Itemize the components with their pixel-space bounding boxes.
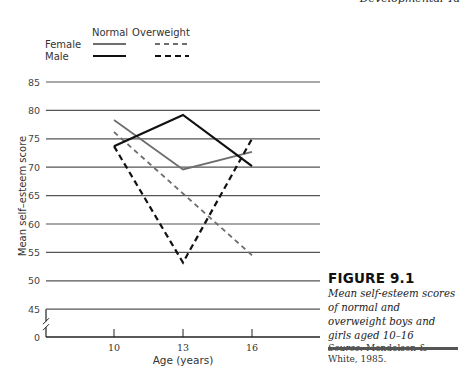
- y-tick-label: 80: [28, 105, 40, 116]
- y-tick-label: 0: [34, 332, 40, 343]
- y-tick-label: 45: [28, 304, 40, 315]
- series-lines: [114, 115, 252, 263]
- y-tick-label: 50: [28, 275, 40, 286]
- series-female-normal: [114, 120, 252, 169]
- y-tick-label: 70: [28, 162, 40, 173]
- legend-header-overweight: Overweight: [132, 27, 190, 38]
- legend-header-normal: Normal: [92, 27, 128, 38]
- legend-row-male: Male: [45, 51, 69, 62]
- legend-row-female: Female: [45, 39, 81, 50]
- x-axis-label: Age (years): [153, 354, 214, 366]
- y-tick-label: 75: [28, 133, 40, 144]
- figure-description: Mean self-esteem scores of normal and ov…: [328, 287, 458, 343]
- y-axis-label: Mean self–esteem score: [17, 136, 28, 256]
- series-male-normal: [114, 115, 252, 166]
- y-tick-label: 55: [28, 247, 40, 258]
- figure-caption: FIGURE 9.1 Mean self-esteem scores of no…: [328, 270, 458, 365]
- x-tick-label: 13: [177, 342, 189, 353]
- figure-number: FIGURE 9.1: [328, 270, 458, 286]
- y-tick-label: 65: [28, 190, 40, 201]
- caption-rule: [328, 347, 458, 350]
- y-tick-label: 60: [28, 219, 40, 230]
- x-tick-label: 16: [246, 342, 258, 353]
- legend: NormalOverweightFemaleMale: [45, 27, 190, 62]
- x-tick-label: 10: [108, 342, 120, 353]
- y-tick-label: 85: [28, 77, 40, 88]
